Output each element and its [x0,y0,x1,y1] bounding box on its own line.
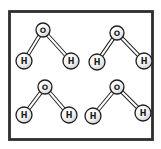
hydrogen-label: H [66,111,73,120]
oxygen-label: O [114,29,120,38]
molecules-illustration: O H H O H H [0,0,161,149]
water-molecules-figure: O H H O H H [0,0,161,149]
hydrogen-label: H [21,111,28,120]
hydrogen-label: H [21,57,28,66]
oxygen-label: O [42,83,48,92]
hydrogen-label: H [94,58,101,67]
hydrogen-label: H [68,57,75,66]
hydrogen-label: H [140,109,147,118]
diagram-frame [10,12,153,140]
hydrogen-label: H [90,112,97,121]
oxygen-label: O [114,83,120,92]
hydrogen-label: H [141,57,148,66]
oxygen-label: O [40,26,46,35]
